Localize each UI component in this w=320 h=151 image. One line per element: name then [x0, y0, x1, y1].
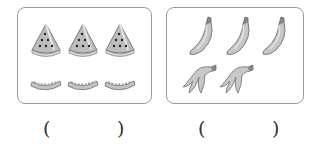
watermelon-slice-icon	[104, 22, 136, 58]
answer-right-open-paren: (	[198, 117, 205, 139]
answer-left-open-paren: (	[43, 117, 50, 139]
watermelon-rind-icon	[104, 78, 136, 94]
banana-peel-icon	[181, 63, 217, 95]
answer-right-close-paren: )	[272, 117, 279, 139]
answer-left-close-paren: )	[117, 117, 124, 139]
watermelon-slice-icon	[30, 22, 62, 58]
banana-icon	[258, 16, 290, 58]
banana-icon	[222, 16, 254, 58]
banana-icon	[185, 16, 217, 58]
banana-peel-icon	[218, 63, 254, 95]
watermelon-rind-icon	[30, 78, 62, 94]
watermelon-slice-icon	[67, 22, 99, 58]
watermelon-rind-icon	[67, 78, 99, 94]
